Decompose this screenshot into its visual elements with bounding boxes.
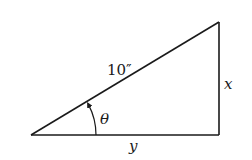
- right-triangle-diagram: 10″ x y θ: [0, 0, 252, 160]
- horizontal-side-label: y: [128, 137, 138, 155]
- hypotenuse-label: 10″: [107, 61, 132, 79]
- angle-label: θ: [100, 110, 109, 128]
- angle-arc-arrow: [89, 105, 97, 135]
- vertical-side-label: x: [224, 75, 233, 93]
